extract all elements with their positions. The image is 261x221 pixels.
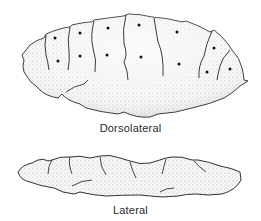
view-label-dorsolateral: Dorsolateral <box>0 122 261 134</box>
dorsolateral-view <box>22 14 248 117</box>
view-label-lateral: Lateral <box>0 204 261 216</box>
lateral-view <box>18 155 241 197</box>
specimen-illustration <box>0 0 261 221</box>
